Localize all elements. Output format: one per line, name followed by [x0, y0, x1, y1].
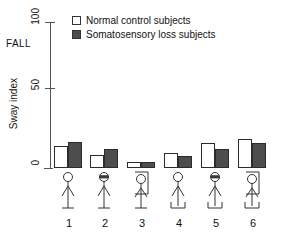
bar-loss-2	[104, 149, 118, 168]
x-label-5: 5	[198, 217, 234, 230]
bar-loss-1	[68, 142, 82, 168]
y-tick-label-0: 0	[31, 160, 41, 166]
bar-loss-5	[215, 149, 229, 168]
fall-annotation-label: FALL	[6, 38, 31, 49]
x-label-4: 4	[161, 217, 197, 230]
bar-normal-1	[54, 146, 68, 168]
bar-loss-3	[141, 162, 155, 168]
bar-group-3	[124, 22, 160, 168]
stick-figure-eyes-open-fixed-support	[51, 170, 87, 216]
condition-figures	[51, 170, 279, 216]
bar-normal-6	[238, 139, 252, 168]
bar-normal-5	[201, 143, 215, 168]
bars-3	[127, 162, 155, 168]
bar-group-5	[198, 22, 234, 168]
bars-1	[54, 142, 82, 168]
y-axis-title: Sway index	[8, 78, 19, 129]
bar-loss-4	[178, 156, 192, 168]
bar-normal-2	[90, 155, 104, 168]
bars-2	[90, 149, 118, 168]
bar-group-4	[161, 22, 197, 168]
y-tick-label-100: 100	[31, 8, 41, 25]
stick-figure-sway-referenced-vision-fixed-support	[124, 170, 160, 216]
y-tick-label-50: 50	[31, 79, 41, 90]
plot-area	[51, 22, 279, 168]
bar-group-1	[51, 22, 87, 168]
stick-figure-sway-referenced-vision-and-support	[235, 170, 271, 216]
bars-6	[238, 139, 266, 168]
bars-4	[164, 153, 192, 168]
bar-normal-4	[164, 153, 178, 168]
sway-index-bar-chart: 100 50 0 FALL Sway index Normal control …	[0, 0, 284, 240]
x-label-6: 6	[235, 217, 271, 230]
x-label-2: 2	[87, 217, 123, 230]
stick-figure-eyes-closed-fixed-support	[87, 170, 123, 216]
x-axis-labels: 1 2 3 4 5 6	[51, 217, 279, 233]
bar-group-2	[87, 22, 123, 168]
bar-normal-3	[127, 162, 141, 168]
bars-5	[201, 143, 229, 168]
y-tick-0	[44, 168, 53, 169]
bar-group-6	[235, 22, 271, 168]
x-label-1: 1	[51, 217, 87, 230]
stick-figure-eyes-closed-sway-referenced-support	[198, 170, 234, 216]
bar-loss-6	[252, 143, 266, 168]
stick-figure-eyes-open-sway-referenced-support	[161, 170, 197, 216]
x-label-3: 3	[124, 217, 160, 230]
